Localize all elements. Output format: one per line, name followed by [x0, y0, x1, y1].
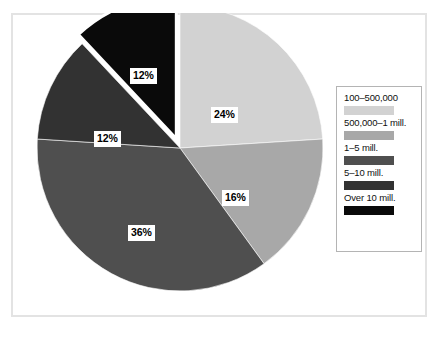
legend-item-label: 100–500,000 — [344, 92, 415, 104]
pie-slice-percent-label: 12% — [130, 68, 157, 84]
pie-slices — [37, 13, 323, 291]
legend-item[interactable]: Over 10 mill. — [344, 192, 415, 215]
legend-item[interactable]: 1–5 mill. — [344, 142, 415, 165]
legend-swatch-1-5mill — [344, 156, 394, 165]
legend-item[interactable]: 500,000–1 mill. — [344, 117, 415, 140]
pie-slice-percent-label: 16% — [222, 190, 249, 206]
legend-swatch-100-500000 — [344, 106, 394, 115]
legend-item-label: Over 10 mill. — [344, 192, 415, 204]
legend-item-label: 1–5 mill. — [344, 142, 415, 154]
legend-item-label: 5–10 mill. — [344, 167, 415, 179]
legend-swatch-over-10mill — [344, 206, 394, 215]
pie-slice-percent-label: 24% — [211, 107, 238, 123]
legend-swatch-5-10mill — [344, 181, 394, 190]
legend: 100–500,000 500,000–1 mill. 1–5 mill. 5–… — [336, 86, 422, 252]
legend-item[interactable]: 100–500,000 — [344, 92, 415, 115]
pie-chart-figure: 24%16%36%12%12% 100–500,000 500,000–1 mi… — [0, 0, 441, 338]
pie-plot-area: 24%16%36%12%12% — [11, 13, 341, 317]
legend-item[interactable]: 5–10 mill. — [344, 167, 415, 190]
legend-item-label: 500,000–1 mill. — [344, 117, 415, 129]
pie-slice[interactable] — [180, 13, 323, 148]
pie-svg — [11, 13, 341, 317]
pie-slice-percent-label: 36% — [128, 225, 155, 241]
pie-slice-percent-label: 12% — [94, 131, 121, 147]
legend-swatch-500000-1mill — [344, 131, 394, 140]
